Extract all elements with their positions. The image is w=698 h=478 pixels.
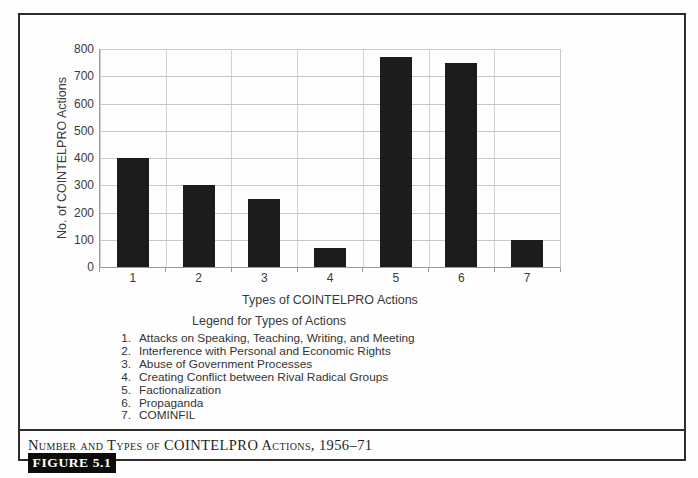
legend-item-number: 3. <box>115 358 131 371</box>
legend-item: 5.Factionalization <box>115 384 415 397</box>
legend-item-number: 4. <box>115 371 131 384</box>
bar <box>445 63 477 267</box>
y-tick-label: 0 <box>42 260 94 274</box>
y-tick-label: 600 <box>42 97 94 111</box>
x-tick-label: 2 <box>166 271 232 285</box>
legend-item-text: Factionalization <box>139 384 221 397</box>
legend-list: 1.Attacks on Speaking, Teaching, Writing… <box>115 332 415 422</box>
bar <box>117 158 149 267</box>
legend-item: 2.Interference with Personal and Economi… <box>115 345 415 358</box>
legend-item: 3.Abuse of Government Processes <box>115 358 415 371</box>
x-tick-label: 5 <box>363 271 429 285</box>
y-tick-label: 500 <box>42 124 94 138</box>
legend-item-text: Creating Conflict between Rival Radical … <box>139 371 388 384</box>
legend-item-text: Abuse of Government Processes <box>139 358 312 371</box>
y-tick-label: 800 <box>42 42 94 56</box>
figure-badge: FIGURE 5.1 <box>28 453 116 473</box>
caption-row: Number and Types of COINTELPRO Actions, … <box>20 429 684 459</box>
x-axis-title: Types of COINTELPRO Actions <box>100 293 560 307</box>
legend-item: 4.Creating Conflict between Rival Radica… <box>115 371 415 384</box>
bar <box>380 57 412 267</box>
y-tick-label: 700 <box>42 69 94 83</box>
legend-item: 1.Attacks on Speaking, Teaching, Writing… <box>115 332 415 345</box>
bar <box>314 248 346 267</box>
y-tick-label: 400 <box>42 151 94 165</box>
bar <box>248 199 280 267</box>
x-tick-label: 4 <box>297 271 363 285</box>
x-tick-label: 7 <box>494 271 560 285</box>
y-tick-label: 300 <box>42 178 94 192</box>
scanned-figure-page: No. of COINTELPRO Actions 80070060050040… <box>0 0 698 478</box>
legend-heading: Legend for Types of Actions <box>192 314 346 328</box>
x-axis-ticks: 1234567 <box>100 271 560 285</box>
x-tick-label: 1 <box>100 271 166 285</box>
legend-item-number: 5. <box>115 384 131 397</box>
figure-caption: Number and Types of COINTELPRO Actions, … <box>28 437 372 454</box>
legend-item-text: Attacks on Speaking, Teaching, Writing, … <box>139 332 415 345</box>
figure-frame: No. of COINTELPRO Actions 80070060050040… <box>18 13 686 461</box>
legend-item-number: 1. <box>115 332 131 345</box>
legend-item-text: COMINFIL <box>139 409 195 422</box>
legend-item-text: Interference with Personal and Economic … <box>139 345 391 358</box>
legend-item-number: 7. <box>115 409 131 422</box>
legend-item: 7.COMINFIL <box>115 409 415 422</box>
x-tick-label: 3 <box>231 271 297 285</box>
y-axis-ticks: 8007006005004003002001000 <box>42 49 94 267</box>
legend-item-number: 2. <box>115 345 131 358</box>
y-tick-label: 200 <box>42 206 94 220</box>
y-tick-label: 100 <box>42 233 94 247</box>
bar <box>183 185 215 267</box>
bar <box>511 240 543 267</box>
x-tick-label: 6 <box>429 271 495 285</box>
plot-area <box>99 49 561 268</box>
